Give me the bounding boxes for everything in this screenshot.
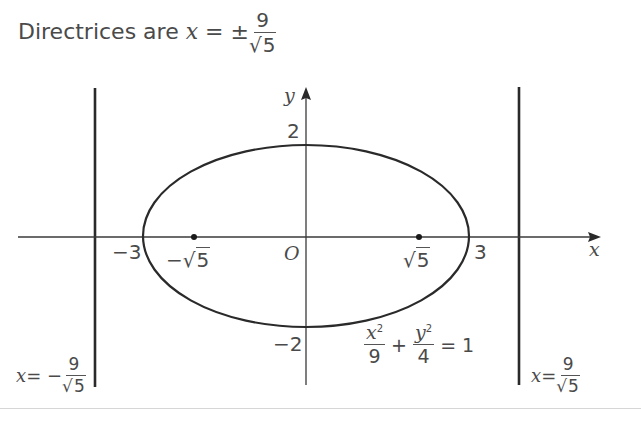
sqrt-icon: √ xyxy=(403,248,416,272)
tick-label-neg-root5: −√5 xyxy=(166,248,210,272)
left-directrix-label: x = −9√5 xyxy=(16,356,86,395)
tick-label-3: 3 xyxy=(474,240,487,264)
tick-label-2: 2 xyxy=(287,119,300,143)
y-axis-label: y xyxy=(284,84,295,106)
sqrt-icon: √ xyxy=(62,376,73,396)
tick-label-neg-3: −3 xyxy=(112,240,141,264)
ellipse-equation: x2 9 + y2 4 = 1 xyxy=(364,323,474,366)
right-directrix-label: x = 9√5 xyxy=(531,356,580,395)
right-focus-point xyxy=(416,234,422,240)
y-term-fraction: y2 4 xyxy=(413,323,434,366)
sqrt-icon: √ xyxy=(556,376,567,396)
x-axis-label: x xyxy=(589,238,600,260)
divider xyxy=(0,408,641,409)
plus-sign: + xyxy=(391,334,407,356)
left-focus-point xyxy=(191,234,197,240)
tick-label-neg-2: −2 xyxy=(273,332,302,356)
equation-rhs: = 1 xyxy=(440,334,474,356)
sqrt-icon: √ xyxy=(183,248,196,272)
x-term-fraction: x2 9 xyxy=(364,323,385,366)
origin-label: O xyxy=(284,242,300,264)
tick-label-root5: √5 xyxy=(403,248,430,272)
